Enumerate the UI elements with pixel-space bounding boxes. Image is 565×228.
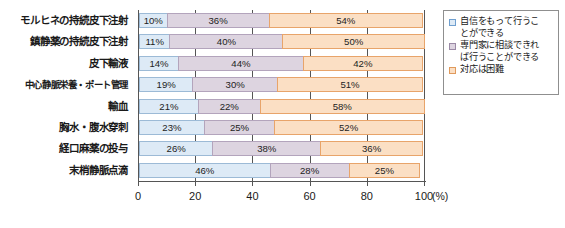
x-tick (252, 181, 253, 186)
x-tick-label: 60 (290, 190, 330, 202)
bar-segment: 14% (139, 56, 179, 71)
category-label: 輸血 (0, 96, 133, 117)
bar-segment: 28% (270, 163, 350, 178)
bar-row: 19% 30% 51% (139, 77, 425, 92)
x-tick (424, 181, 425, 186)
category-label: 経口麻薬の投与 (0, 138, 133, 159)
x-axis-line (138, 181, 426, 182)
bar-segment: 50% (282, 34, 425, 49)
legend-item[interactable]: 対応は困難 (449, 64, 554, 76)
bar-segment: 51% (277, 77, 423, 92)
x-tick (195, 181, 196, 186)
x-tick-label: 0 (118, 190, 158, 202)
category-axis-labels: モルヒネの持続皮下注射 鎮静薬の持続皮下注射 皮下輸液 中心静脈栄養・ポート管理… (0, 10, 133, 181)
bar-segment: 46% (139, 163, 271, 178)
legend-item[interactable]: 自信をもって行うことができる (449, 16, 554, 39)
bar-segment: 52% (274, 120, 423, 135)
bar-row: 10% 36% 54% (139, 13, 425, 28)
legend-label: 専門家に相談できれば行うことができる (460, 40, 539, 63)
bar-segment: 30% (192, 77, 278, 92)
x-tick (138, 181, 139, 186)
bar-segment: 23% (139, 120, 205, 135)
plot-area: 10% 36% 54% 11% 40% 50% 14% 44% 42% 19% … (138, 10, 425, 181)
bar-segment: 19% (139, 77, 193, 92)
bar-segment: 54% (269, 13, 423, 28)
bar-segment: 21% (139, 99, 199, 114)
bar-segment: 10% (139, 13, 168, 28)
bar-segment: 36% (320, 141, 423, 156)
bar-segment: 58% (260, 99, 425, 114)
bar-segment: 36% (167, 13, 270, 28)
bar-row: 21% 22% 58% (139, 99, 425, 114)
bar-segment: 26% (139, 141, 213, 156)
category-label: 末梢静脈点滴 (0, 160, 133, 181)
legend-swatch-icon (449, 43, 456, 50)
bar-segment: 42% (303, 56, 423, 71)
legend: 自信をもって行うことができる 専門家に相談できれば行うことができる 対応は困難 (443, 10, 559, 95)
x-tick-label: 20 (175, 190, 215, 202)
legend-label: 自信をもって行うことができる (460, 16, 539, 39)
bar-segment: 44% (178, 56, 304, 71)
legend-item[interactable]: 専門家に相談できれば行うことができる (449, 40, 554, 63)
category-label: 胸水・腹水穿刺 (0, 117, 133, 138)
bar-row: 14% 44% 42% (139, 56, 425, 71)
bar-segment: 22% (198, 99, 261, 114)
legend-swatch-icon (449, 19, 456, 26)
category-label: 皮下輸液 (0, 53, 133, 74)
stacked-bar-chart: モルヒネの持続皮下注射 鎮静薬の持続皮下注射 皮下輸液 中心静脈栄養・ポート管理… (0, 0, 565, 228)
bar-segment: 38% (212, 141, 321, 156)
bar-row: 23% 25% 52% (139, 120, 425, 135)
legend-label: 対応は困難 (460, 64, 504, 76)
bar-segment: 40% (169, 34, 283, 49)
bar-row: 46% 28% 25% (139, 163, 425, 178)
x-tick (310, 181, 311, 186)
legend-swatch-icon (449, 67, 456, 74)
bar-segment: 25% (204, 120, 276, 135)
x-axis-unit-label: (%) (432, 190, 448, 202)
category-label: モルヒネの持続皮下注射 (0, 10, 133, 31)
x-tick-label: 40 (232, 190, 272, 202)
bar-row: 26% 38% 36% (139, 141, 425, 156)
bar-segment: 25% (349, 163, 421, 178)
bar-row: 11% 40% 50% (139, 34, 425, 49)
bar-segment: 11% (139, 34, 170, 49)
category-label: 中心静脈栄養・ポート管理 (0, 74, 133, 95)
x-tick-label: 80 (347, 190, 387, 202)
x-tick (367, 181, 368, 186)
category-label: 鎮静薬の持続皮下注射 (0, 31, 133, 52)
